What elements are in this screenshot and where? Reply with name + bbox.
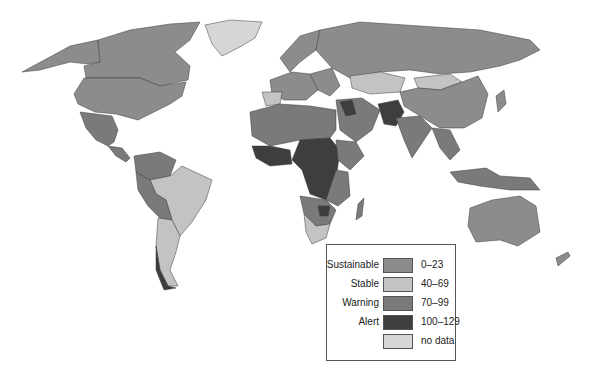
region-kazakhstan: [350, 72, 405, 94]
region-zimbabwe: [318, 206, 330, 216]
legend-swatch: [383, 315, 413, 330]
legend-row-warning: Warning 70–99: [327, 295, 457, 313]
region-central-america: [108, 146, 130, 162]
region-mexico: [80, 112, 118, 146]
legend-swatch: [383, 258, 413, 273]
region-madagascar: [356, 198, 364, 220]
region-horn-of-africa: [336, 140, 364, 170]
region-indonesia: [450, 168, 540, 190]
region-southeast-asia: [432, 128, 460, 160]
region-australia: [468, 196, 540, 246]
region-greenland: [205, 20, 262, 56]
region-iberia: [262, 92, 282, 106]
legend-label: Sustainable: [327, 259, 379, 270]
legend-row-stable: Stable 40–69: [327, 276, 457, 294]
region-india: [396, 116, 432, 158]
legend-label: Stable: [351, 278, 379, 289]
legend-row-no-data: no data: [327, 333, 457, 351]
legend-row-alert: Alert 100–129: [327, 314, 457, 332]
legend-swatch: [383, 277, 413, 292]
region-russia: [316, 22, 540, 78]
legend-range: 100–129: [421, 316, 460, 327]
legend-swatch: [383, 296, 413, 311]
legend-range: no data: [421, 335, 454, 346]
region-new-zealand: [556, 252, 570, 266]
map-legend: Sustainable 0–23 Stable 40–69 Warning 70…: [326, 244, 456, 361]
legend-row-sustainable: Sustainable 0–23: [327, 257, 457, 275]
world-map: [0, 0, 609, 381]
region-japan-korea: [496, 90, 506, 112]
region-scandinavia: [280, 30, 320, 72]
legend-swatch: [383, 334, 413, 349]
region-west-africa: [252, 146, 292, 166]
legend-label: Alert: [358, 316, 379, 327]
legend-range: 0–23: [421, 259, 443, 270]
legend-range: 40–69: [421, 278, 449, 289]
legend-range: 70–99: [421, 297, 449, 308]
region-canada: [84, 22, 200, 86]
legend-label: Warning: [342, 297, 379, 308]
